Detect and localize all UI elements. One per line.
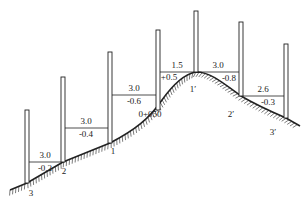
- survey-pole-p-3p: [284, 44, 288, 118]
- terrain-cross-section-diagram: 3.0-0.23.0-0.43.0-0.61.5+0.53.0-0.82.6-0…: [0, 0, 304, 206]
- hatch-tick: [264, 110, 268, 114]
- height-difference-label: -0.6: [127, 96, 142, 106]
- height-difference-label: -0.2: [38, 163, 52, 173]
- height-difference-label: +0.5: [161, 72, 178, 82]
- hatch-tick: [267, 112, 271, 116]
- station-label: 3: [29, 188, 34, 198]
- station-label: 1′: [190, 84, 197, 94]
- survey-pole-p-1p: [194, 11, 198, 72]
- horizontal-distance-label: 2.6: [257, 84, 269, 94]
- height-difference-label: -0.3: [261, 97, 276, 107]
- hatch-tick: [259, 108, 263, 111]
- horizontal-distance-label: 3.0: [39, 150, 51, 160]
- station-label: 0+050: [138, 109, 162, 119]
- hatch-tick: [179, 81, 180, 86]
- hatch-tick: [177, 83, 179, 88]
- hatch-tick: [261, 109, 265, 112]
- station-label: 2′: [228, 109, 235, 119]
- survey-pole-p-2: [61, 77, 65, 162]
- hatch-tick: [182, 79, 183, 85]
- station-label: 2: [62, 166, 67, 176]
- survey-poles: [25, 11, 288, 183]
- hatch-tick: [256, 106, 260, 109]
- hatch-tick: [247, 102, 252, 105]
- horizontal-distance-label: 1.5: [171, 60, 183, 70]
- horizontal-distance-label: 3.0: [128, 83, 140, 93]
- height-difference-label: -0.8: [222, 73, 237, 83]
- station-label: 3′: [270, 127, 277, 137]
- horizontal-distance-label: 3.0: [80, 116, 92, 126]
- survey-pole-p-3: [25, 110, 29, 183]
- hatch-tick: [253, 105, 257, 108]
- hatch-tick: [270, 113, 274, 117]
- height-difference-label: -0.4: [79, 129, 94, 139]
- hatch-tick: [250, 103, 255, 106]
- survey-pole-p-mid: [156, 30, 160, 110]
- survey-pole-p-2p: [239, 22, 243, 96]
- ground-hatching: [10, 72, 298, 196]
- station-point-labels: 3210+0501′2′3′: [29, 84, 277, 198]
- survey-pole-p-1: [108, 52, 112, 143]
- station-label: 1: [111, 146, 116, 156]
- horizontal-distance-label: 3.0: [212, 60, 224, 70]
